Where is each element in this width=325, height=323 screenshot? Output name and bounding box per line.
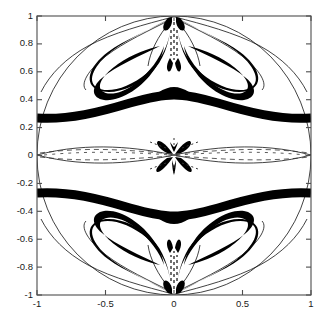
y-tick-label: 1	[28, 10, 33, 21]
y-tick-label: -0.6	[17, 233, 33, 244]
x-tick-label: 0.5	[236, 298, 249, 309]
y-tick-labels: 1 0.8 0.6 0.4 0.2 0 -0.2 -0.4 -0.6 -0.8 …	[17, 10, 33, 300]
plot-canvas: 1 0.8 0.6 0.4 0.2 0 -0.2 -0.4 -0.6 -0.8 …	[0, 0, 325, 323]
y-tick-label: -0.4	[17, 205, 33, 216]
y-tick-label: 0	[28, 149, 33, 160]
y-tick-label: -1	[25, 289, 33, 300]
x-tick-label: 1	[308, 298, 313, 309]
x-tick-label: -1	[33, 298, 41, 309]
x-tick-label: 0	[171, 298, 176, 309]
plot-background	[37, 16, 311, 295]
y-tick-label: 0.8	[20, 37, 33, 48]
x-tick-label: -0.5	[97, 298, 113, 309]
y-tick-label: -0.8	[17, 261, 33, 272]
y-tick-label: 0.6	[20, 65, 33, 76]
y-tick-label: 0.2	[20, 121, 33, 132]
x-tick-labels: -1 -0.5 0 0.5 1	[33, 298, 314, 309]
figure-container: 1 0.8 0.6 0.4 0.2 0 -0.2 -0.4 -0.6 -0.8 …	[0, 0, 325, 323]
y-tick-label: -0.2	[17, 177, 33, 188]
y-tick-label: 0.4	[20, 93, 33, 104]
